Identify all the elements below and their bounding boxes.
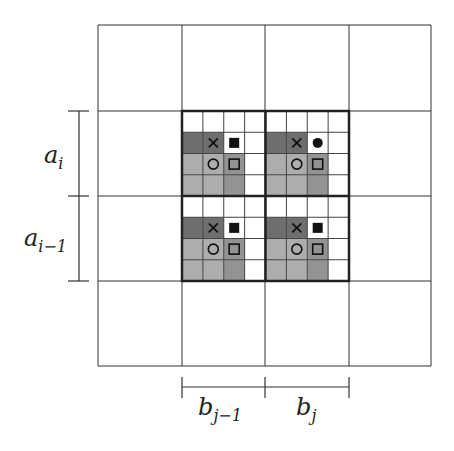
- label-a-i: ai: [44, 141, 63, 173]
- subcell-light: [266, 239, 287, 260]
- subcell-light: [286, 239, 307, 260]
- subcell-light: [182, 154, 203, 175]
- filled-square-icon: [313, 223, 323, 233]
- subcell-dark: [182, 132, 203, 153]
- subcell-mid: [224, 175, 245, 196]
- filled-square-icon: [229, 138, 239, 148]
- subcell-mid: [224, 154, 245, 175]
- subcell-dark: [182, 217, 203, 238]
- subcell-dark: [266, 132, 287, 153]
- subcell-light: [203, 239, 224, 260]
- subcell-mid: [224, 239, 245, 260]
- subcell-mid: [307, 175, 328, 196]
- outer-grid: [98, 25, 431, 366]
- label-b-j-minus-1: bj−1: [198, 393, 242, 425]
- filled-circle-icon: [313, 138, 323, 148]
- subcell-light: [266, 260, 287, 281]
- subcell-mid: [307, 154, 328, 175]
- subcell-mid: [307, 260, 328, 281]
- subcell-light: [286, 154, 307, 175]
- subcell-light: [182, 239, 203, 260]
- subcell-dark: [266, 217, 287, 238]
- label-a-i-minus-1: ai−1: [24, 224, 67, 256]
- block-grid-diagram: ai ai−1 bj−1 bj: [0, 0, 454, 451]
- subcell-mid: [224, 260, 245, 281]
- subcell-light: [203, 260, 224, 281]
- subcell-light: [203, 154, 224, 175]
- subcell-light: [182, 260, 203, 281]
- subcell-light: [286, 175, 307, 196]
- shaded-subcells: [182, 132, 328, 281]
- subcell-light: [203, 175, 224, 196]
- subcell-mid: [307, 239, 328, 260]
- subcell-light: [286, 260, 307, 281]
- subcell-light: [182, 175, 203, 196]
- filled-square-icon: [229, 223, 239, 233]
- subcell-light: [266, 154, 287, 175]
- subcell-light: [266, 175, 287, 196]
- label-b-j: bj: [296, 393, 316, 425]
